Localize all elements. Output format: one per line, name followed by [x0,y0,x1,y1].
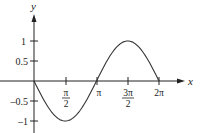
y-axis-label: y [30,0,36,12]
y-tick-label: –1 [17,116,28,127]
x-tick-label-numerator: π [64,88,69,98]
y-axis-arrow-icon [32,14,37,22]
y-tick-label: 1 [21,36,26,47]
y-tick-label: –0.5 [10,96,29,107]
x-ticks: π 2 π 3π 2 2π [62,77,164,109]
x-tick-label: 2π [154,88,164,98]
chart: y x 1 0.5 –0.5 –1 π 2 π 3π 2 2π [0,0,200,133]
x-tick-label-denominator: 2 [64,99,69,109]
x-tick-label-numerator: 3π [123,88,133,98]
x-axis-label: x [187,75,193,87]
x-tick-label: π [97,88,102,98]
x-axis-arrow-icon [177,79,185,84]
x-tick-label-denominator: 2 [126,99,131,109]
y-tick-label: 0.5 [16,56,29,67]
